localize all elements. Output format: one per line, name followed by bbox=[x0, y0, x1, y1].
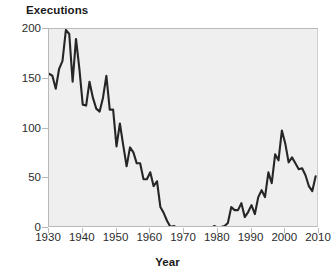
executions-line-series bbox=[49, 29, 318, 227]
y-tick-label-100: 100 bbox=[7, 122, 41, 134]
x-tick-mark-1960 bbox=[149, 228, 150, 233]
y-tick-mark-200 bbox=[42, 28, 48, 29]
y-tick-mark-50 bbox=[42, 177, 48, 178]
y-tick-label-150: 150 bbox=[7, 72, 41, 84]
x-tick-mark-2000 bbox=[284, 228, 285, 233]
x-axis-title: Year bbox=[0, 256, 335, 268]
y-tick-label-200: 200 bbox=[7, 22, 41, 34]
x-tick-mark-1930 bbox=[48, 228, 49, 233]
x-tick-mark-2010 bbox=[318, 228, 319, 233]
x-tick-mark-1990 bbox=[251, 228, 252, 233]
x-tick-mark-1940 bbox=[82, 228, 83, 233]
y-tick-label-50: 50 bbox=[7, 171, 41, 183]
plot-area bbox=[48, 28, 318, 227]
x-tick-mark-1950 bbox=[116, 228, 117, 233]
y-tick-mark-150 bbox=[42, 78, 48, 79]
y-tick-mark-100 bbox=[42, 128, 48, 129]
x-tick-mark-1980 bbox=[217, 228, 218, 233]
x-tick-label-2010: 2010 bbox=[298, 231, 335, 243]
chart-figure: Executions bbox=[0, 0, 335, 279]
x-tick-mark-1970 bbox=[183, 228, 184, 233]
